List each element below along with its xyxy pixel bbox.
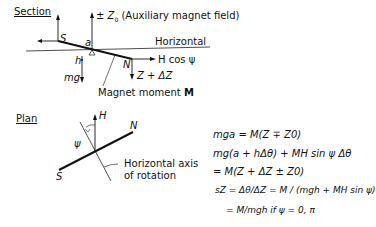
- n-pole-label: N: [123, 60, 130, 70]
- psi-label: ψ: [74, 139, 81, 149]
- equation-4: sZ = Δθ/ΔZ = M / (mgh + MH sin ψ): [215, 186, 376, 195]
- plan-h-label: H: [99, 111, 107, 121]
- z0-description: (Auxiliary magnet field): [121, 10, 239, 21]
- horizontal-label: Horizontal: [155, 37, 206, 47]
- hcos-label: H cos ψ: [158, 55, 195, 65]
- equation-5: = M/mgh if ψ = 0, π: [226, 206, 315, 215]
- z0-symbol: ± Z: [96, 10, 114, 21]
- plan-heading: Plan: [16, 114, 37, 124]
- mg-label: mg: [64, 73, 80, 83]
- equation-4-lhs: sZ = Δθ/ΔZ: [215, 185, 266, 195]
- plan-n-label: N: [130, 121, 137, 131]
- z-delta-label: Z + ΔZ: [137, 71, 172, 81]
- section-heading: Section: [14, 7, 51, 17]
- z0-label: ± Z0 (Auxiliary magnet field): [96, 11, 239, 23]
- equation-1: mga = M(Z ∓ Z0): [213, 130, 301, 140]
- z0-subscript: 0: [114, 16, 118, 23]
- equation-4-rhs: = M / (mgh + MH sin ψ): [269, 185, 375, 195]
- a-label: a: [85, 38, 91, 48]
- axis-label-1: Horizontal axis: [124, 159, 198, 169]
- magnet-moment-label: Magnet moment M: [98, 88, 194, 98]
- moment-symbol: M: [184, 87, 194, 98]
- plan-s-label: S: [56, 172, 62, 182]
- equation-3: = M(Z + ΔZ ± Z0): [213, 167, 304, 177]
- axis-label-2: of rotation: [124, 171, 176, 181]
- h-label: h: [75, 56, 81, 66]
- equation-2: mg(a + hΔθ) + MH sin ψ Δθ: [213, 149, 351, 159]
- moment-text: Magnet moment: [98, 87, 181, 98]
- s-pole-label: S: [60, 34, 66, 44]
